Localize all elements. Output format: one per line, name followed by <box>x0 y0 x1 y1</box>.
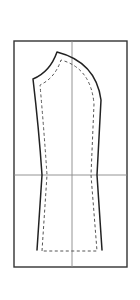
sleeve-outline <box>33 52 102 250</box>
outer-frame <box>14 41 127 267</box>
sleeve-pattern-diagram <box>0 0 140 300</box>
seam-line <box>40 60 97 251</box>
